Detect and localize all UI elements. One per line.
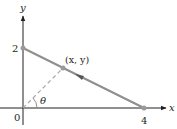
y-axis-label: y [19, 2, 26, 13]
x-intercept-label: 4 [141, 115, 147, 126]
point-y-intercept [21, 46, 26, 51]
diagram-canvas: y x 2 0 4 (x, y) θ [0, 0, 177, 129]
point-x-intercept [142, 106, 147, 111]
point-xy [61, 66, 66, 71]
x-axis-label: x [169, 102, 175, 113]
y-intercept-label: 2 [12, 43, 18, 54]
origin-label: 0 [14, 112, 20, 123]
theta-label: θ [40, 95, 46, 106]
theta-arc [33, 98, 37, 108]
direction-arrow-icon [75, 74, 84, 80]
point-xy-label: (x, y) [65, 54, 89, 65]
